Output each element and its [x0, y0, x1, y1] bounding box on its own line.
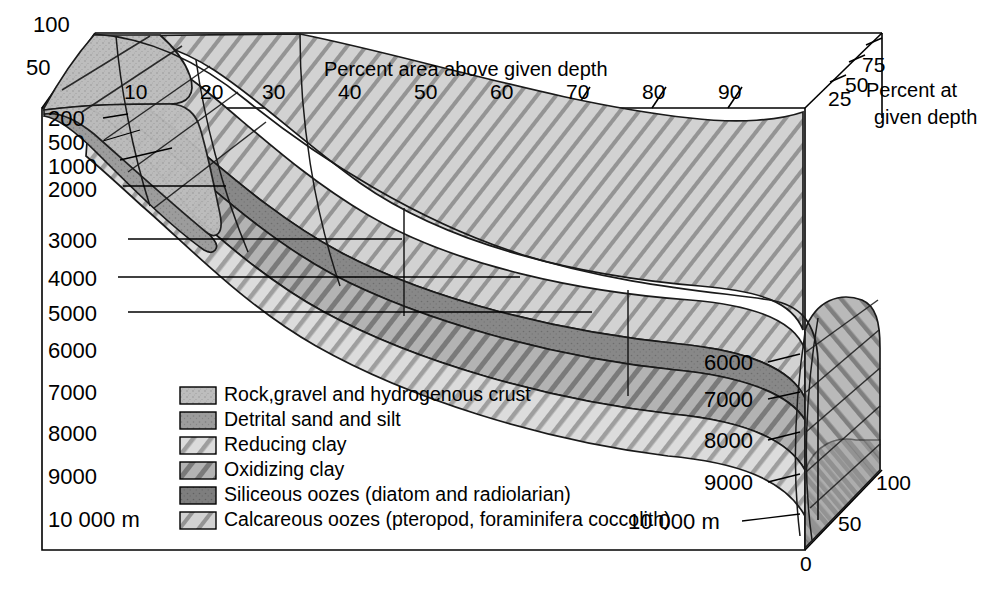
upper-left-tick-50: 50 — [26, 55, 50, 80]
legend-swatch-detrital — [180, 412, 216, 429]
top-axis-title: Percent area above given depth — [324, 58, 608, 80]
left-depth-7000: 7000 — [48, 380, 97, 405]
right-depth-6000: 6000 — [704, 350, 753, 375]
figure-canvas: Percent area above given depth 10 20 30 … — [0, 0, 993, 596]
legend-item-oxidizing[interactable]: Oxidizing clay — [180, 458, 345, 480]
legend-label-rock: Rock,gravel and hydrogenous crust — [224, 383, 531, 405]
right-axis-title-line2: given depth — [874, 106, 977, 128]
top-tick-60: 60 — [490, 80, 513, 103]
legend-item-calcareous[interactable]: Calcareous oozes (pteropod, foraminifera… — [180, 508, 671, 530]
top-tick-40: 40 — [338, 80, 361, 103]
top-tick-70: 70 — [566, 80, 589, 103]
top-axis-tick-labels: 10 20 30 40 50 60 70 80 90 — [124, 80, 741, 103]
layer-rock-shelf — [44, 35, 192, 110]
left-depth-9000: 9000 — [48, 464, 97, 489]
legend-swatch-siliceous — [180, 487, 216, 504]
bottom-right-tick-0: 0 — [800, 552, 812, 575]
legend-label-calcareous: Calcareous oozes (pteropod, foraminifera… — [224, 508, 671, 530]
left-depth-200: 200 — [48, 106, 85, 131]
legend-label-siliceous: Siliceous oozes (diatom and radiolarian) — [224, 483, 571, 505]
right-axis-title-line1: Percent at — [866, 79, 958, 101]
top-tick-30: 30 — [262, 80, 285, 103]
left-depth-4000: 4000 — [48, 266, 97, 291]
legend-swatch-reducing — [180, 437, 216, 454]
top-tick-50: 50 — [414, 80, 437, 103]
legend-item-siliceous[interactable]: Siliceous oozes (diatom and radiolarian) — [180, 483, 571, 505]
top-tick-10: 10 — [124, 80, 147, 103]
upper-left-tick-100: 100 — [33, 12, 70, 37]
top-tick-80: 80 — [642, 80, 665, 103]
right-depth-8000: 8000 — [704, 428, 753, 453]
left-depth-8000: 8000 — [48, 421, 97, 446]
left-depth-500: 500 — [48, 130, 85, 155]
upper-right-tick-75: 75 — [862, 53, 885, 76]
upper-right-tick-50: 50 — [845, 73, 868, 96]
block-diagram-svg: Percent area above given depth 10 20 30 … — [0, 0, 993, 596]
right-depth-9000: 9000 — [704, 470, 753, 495]
right-depth-7000: 7000 — [704, 387, 753, 412]
legend-swatch-calcareous — [180, 512, 216, 529]
left-depth-10000: 10 000 m — [48, 507, 140, 532]
left-depth-5000: 5000 — [48, 301, 97, 326]
legend-item-rock[interactable]: Rock,gravel and hydrogenous crust — [180, 383, 531, 405]
legend-item-reducing[interactable]: Reducing clay — [180, 433, 347, 455]
bottom-right-tick-100: 100 — [876, 471, 911, 494]
bottom-right-tick-50: 50 — [838, 512, 861, 535]
legend-label-detrital: Detrital sand and silt — [224, 408, 401, 430]
top-tick-20: 20 — [200, 80, 223, 103]
top-tick-90: 90 — [718, 80, 741, 103]
left-depth-3000: 3000 — [48, 228, 97, 253]
legend-item-detrital[interactable]: Detrital sand and silt — [180, 408, 401, 430]
legend-label-reducing: Reducing clay — [224, 433, 347, 455]
legend-swatch-oxidizing — [180, 462, 216, 479]
left-depth-1000: 1000 — [48, 154, 97, 179]
left-depth-2000: 2000 — [48, 177, 97, 202]
sediment-body — [44, 34, 880, 548]
left-depth-6000: 6000 — [48, 338, 97, 363]
legend-label-oxidizing: Oxidizing clay — [224, 458, 345, 480]
legend-swatch-rock — [180, 387, 216, 404]
